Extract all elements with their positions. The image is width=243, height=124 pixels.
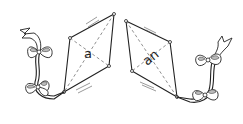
right-kite: an <box>125 20 179 99</box>
left-kite: a <box>63 13 116 94</box>
right-kite-word: an <box>140 47 162 69</box>
right-kite-tail <box>177 36 232 102</box>
kites-illustration: a <box>0 0 243 124</box>
bow-icon <box>196 54 221 66</box>
left-kite-word: a <box>84 46 92 61</box>
left-kite-tail <box>20 28 64 99</box>
